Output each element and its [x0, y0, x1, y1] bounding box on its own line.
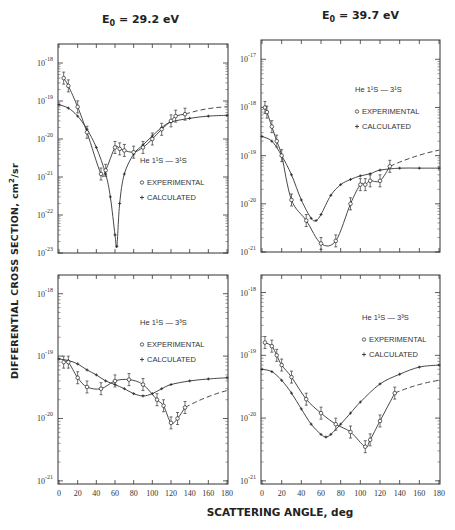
y-tick-label: 10-18: [240, 100, 256, 112]
experimental-point: [85, 385, 89, 389]
experimental-point: [99, 172, 103, 176]
legend-experimental: EXPERIMENTAL: [362, 107, 419, 116]
experimental-point: [378, 179, 382, 183]
legend: He 1¹S — 3³SEXPERIMENTALCALCULATED: [362, 313, 426, 359]
y-tick-label: 10-19: [240, 149, 256, 161]
legend-calculated: CALCULATED: [147, 355, 197, 364]
experimental-point: [378, 419, 382, 423]
y-tick-label: 10-21: [240, 245, 256, 257]
experimental-point: [275, 139, 279, 143]
experimental-point: [169, 119, 173, 123]
experimental-point: [67, 360, 71, 364]
experimental-point: [319, 242, 323, 246]
panel-top-right: 10-1710-1810-1910-2010-21He 1¹S — 3¹SEXP…: [240, 40, 441, 257]
experimental-point: [363, 183, 367, 187]
y-tick-label: 10-20: [240, 197, 256, 209]
y-tick-label: 10-21: [240, 474, 256, 486]
y-tick-label: 10-20: [37, 411, 53, 423]
experimental-point: [169, 421, 173, 425]
x-tick-label: 80: [337, 489, 345, 498]
legend: He 1¹S — 3¹SEXPERIMENTALCALCULATED: [140, 156, 204, 202]
experimental-point: [270, 125, 274, 129]
x-tick-label: 40: [297, 489, 305, 498]
panel-bottom-left: 02040608010012014016018010-1810-1910-201…: [37, 275, 233, 498]
x-tick-label: 20: [278, 489, 286, 498]
experimental-point: [76, 376, 80, 380]
experimental-point: [85, 131, 89, 135]
experimental-marker-icon: [140, 181, 143, 184]
experimental-marker-icon: [362, 338, 365, 341]
experimental-marker-icon: [355, 110, 358, 113]
experimental-point: [160, 127, 164, 131]
transition-label: He 1¹S — 3³S: [140, 318, 187, 327]
experimental-point: [62, 360, 66, 364]
chart-canvas: 10-1810-1910-2010-2110-2210-23He 1¹S — 3…: [0, 0, 455, 530]
experimental-point: [270, 344, 274, 348]
y-tick-label: 10-19: [37, 94, 53, 106]
experimental-point: [176, 417, 180, 421]
experimental-curve: [64, 361, 185, 424]
x-tick-label: 0: [57, 489, 61, 498]
x-tick-label: 20: [74, 489, 82, 498]
y-tick-label: 10-20: [240, 411, 256, 423]
experimental-point: [368, 438, 372, 442]
experimental-point: [304, 397, 308, 401]
y-tick-label: 10-18: [37, 56, 53, 68]
x-tick-label: 140: [184, 489, 196, 498]
panel-top-left: 10-1810-1910-2010-2110-2210-23He 1¹S — 3…: [37, 44, 229, 258]
experimental-point: [76, 105, 80, 109]
x-tick-label: 80: [130, 489, 138, 498]
extrapolation-curve: [185, 391, 227, 408]
experimental-point: [349, 430, 353, 434]
experimental-point: [183, 406, 187, 410]
experimental-point: [349, 202, 353, 206]
experimental-point: [99, 387, 103, 391]
x-tick-label: 180: [433, 489, 445, 498]
legend-calculated: CALCULATED: [369, 350, 419, 359]
experimental-point: [280, 154, 284, 158]
x-tick-label: 140: [394, 489, 406, 498]
experimental-point: [118, 147, 122, 151]
transition-label: He 1¹S — 3¹S: [355, 85, 402, 94]
legend: He 1¹S — 3³SEXPERIMENTALCALCULATED: [140, 318, 204, 364]
legend-experimental: EXPERIMENTAL: [369, 335, 426, 344]
legend-calculated: CALCULATED: [147, 193, 197, 202]
x-tick-label: 160: [202, 489, 214, 498]
experimental-point: [368, 179, 372, 183]
experimental-point: [359, 183, 363, 187]
experimental-point: [113, 379, 117, 383]
experimental-point: [162, 404, 166, 408]
experimental-point: [123, 149, 127, 153]
experimental-point: [127, 378, 131, 382]
legend-experimental: EXPERIMENTAL: [147, 340, 204, 349]
extrapolation-curve: [185, 107, 227, 114]
y-tick-label: 10-21: [37, 474, 53, 486]
experimental-point: [151, 137, 155, 141]
experimental-marker-icon: [140, 343, 143, 346]
y-tick-label: 10-20: [37, 132, 53, 144]
experimental-point: [363, 445, 367, 449]
y-tick-label: 10-19: [240, 348, 256, 360]
x-tick-label: 60: [317, 489, 325, 498]
experimental-point: [67, 84, 71, 88]
transition-label: He 1¹S — 3¹S: [140, 156, 187, 165]
x-tick-label: 160: [413, 489, 425, 498]
y-tick-label: 10-18: [37, 287, 53, 299]
y-tick-label: 10-23: [37, 246, 53, 258]
experimental-point: [265, 110, 269, 114]
x-tick-label: 100: [354, 489, 366, 498]
experimental-point: [132, 150, 136, 154]
experimental-point: [290, 198, 294, 202]
experimental-point: [388, 165, 392, 169]
experimental-point: [104, 169, 108, 173]
x-tick-label: 120: [374, 489, 386, 498]
experimental-point: [141, 383, 145, 387]
x-tick-label: 0: [260, 489, 264, 498]
x-tick-label: 40: [92, 489, 100, 498]
experimental-point: [62, 76, 66, 80]
calculated-curve: [59, 105, 227, 248]
transition-label: He 1¹S — 3³S: [362, 313, 409, 322]
experimental-point: [290, 375, 294, 379]
legend-experimental: EXPERIMENTAL: [147, 178, 204, 187]
experimental-point: [319, 411, 323, 415]
